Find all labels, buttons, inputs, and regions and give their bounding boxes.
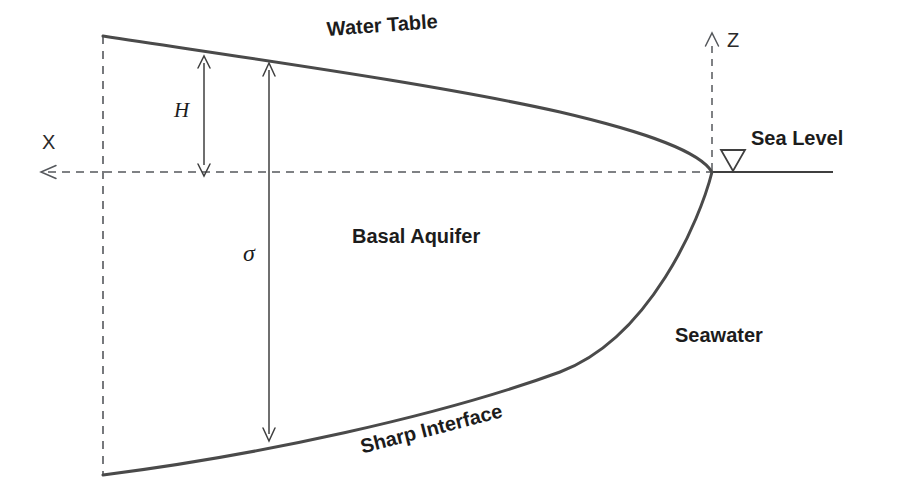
z-axis-arrowhead <box>706 33 719 46</box>
seawater-label: Seawater <box>675 324 763 347</box>
head-thickness-label: H <box>174 98 189 123</box>
diagram-canvas: Water Table Sharp Interface Basal Aquife… <box>0 0 900 503</box>
aquifer-thickness-label: σ <box>243 240 255 267</box>
sea-level-label: Sea Level <box>751 127 843 150</box>
x-axis-label: X <box>42 131 55 154</box>
sea-level-triangle-icon <box>721 150 745 171</box>
water-table-curve <box>103 36 712 172</box>
head-thickness-arrow-bottom <box>198 164 210 176</box>
basal-aquifer-label: Basal Aquifer <box>352 225 480 248</box>
z-axis-label: Z <box>727 29 739 52</box>
